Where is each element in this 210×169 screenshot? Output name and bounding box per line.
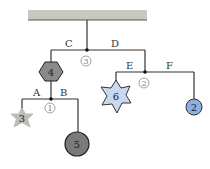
segment-label-f: F <box>166 60 173 71</box>
svg-text:5: 5 <box>74 139 80 150</box>
svg-text:4: 4 <box>48 67 54 78</box>
svg-text:2: 2 <box>191 102 197 113</box>
circle-2-object: 2 <box>186 99 202 115</box>
segment-label-a: A <box>32 87 41 98</box>
pivot-2 <box>143 70 147 74</box>
svg-text:6: 6 <box>113 91 119 102</box>
pivot-3 <box>85 48 89 52</box>
ceiling-bar <box>28 10 147 20</box>
svg-text:2: 2 <box>141 79 146 88</box>
svg-text:3: 3 <box>19 113 25 124</box>
mobile-diagram: C D E F A B 3 2 1 4 6 2 3 5 <box>0 0 210 169</box>
segment-label-b: B <box>60 87 67 98</box>
pivot-1 <box>49 97 53 101</box>
circle-5-object: 5 <box>65 132 89 156</box>
rod-2-number: 2 <box>139 78 149 88</box>
hexagon-object: 4 <box>39 62 63 81</box>
svg-text:1: 1 <box>47 104 52 113</box>
rod-1-number: 1 <box>45 103 55 113</box>
five-point-star-object: 3 <box>11 108 33 127</box>
segment-label-d: D <box>111 38 119 49</box>
segment-label-e: E <box>126 60 133 71</box>
svg-text:3: 3 <box>83 57 88 66</box>
seven-point-star-object: 6 <box>101 80 131 113</box>
segment-label-c: C <box>65 38 73 49</box>
rod-3-number: 3 <box>81 56 91 66</box>
